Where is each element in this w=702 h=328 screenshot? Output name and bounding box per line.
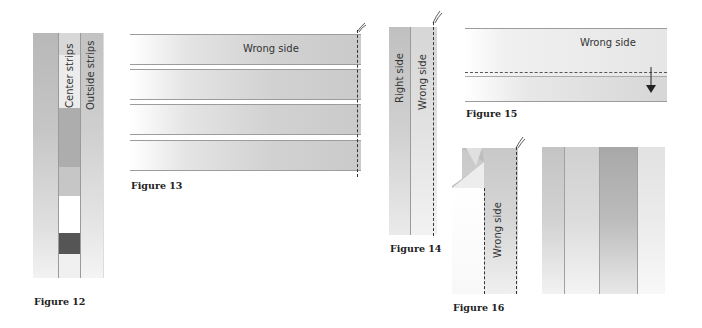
wrong-side-label: Wrong side: [492, 202, 503, 258]
strip-4: [130, 140, 361, 171]
arrow-down-icon: [645, 67, 657, 95]
panel-strip-3: [600, 147, 638, 294]
strip-3: [130, 104, 361, 135]
thread-icon: [514, 136, 526, 149]
center-strips-label: Center strips: [64, 44, 75, 108]
stitch-line-outer: [516, 147, 517, 294]
center-block-dark: [59, 233, 81, 254]
strip-top: [465, 28, 667, 77]
thread-icon: [431, 10, 443, 24]
fold-flap: [452, 148, 492, 190]
thread-icon: [355, 22, 367, 34]
center-block-4: [59, 167, 81, 196]
outside-strip-left: [33, 33, 58, 278]
outside-strips-label: Outside strips: [85, 41, 96, 110]
figure-12-caption: Figure 12: [34, 296, 85, 307]
panel-strip-2: [565, 147, 600, 294]
stitch-line: [357, 30, 358, 177]
stitch-line: [465, 72, 667, 73]
figure-14-caption: Figure 14: [390, 243, 441, 254]
figure-13-caption: Figure 13: [131, 180, 182, 191]
strip-2: [130, 69, 361, 100]
figure-16-caption: Figure 16: [453, 302, 504, 313]
center-block-5: [59, 196, 81, 233]
stitch-line-inner: [484, 188, 485, 294]
center-block-3: [59, 108, 81, 167]
panel-strip-1: [542, 147, 565, 294]
panel-strip-4: [638, 147, 665, 294]
wrong-side-label: Wrong side: [580, 37, 636, 48]
figure-15-caption: Figure 15: [466, 108, 517, 119]
strip-front: [452, 188, 484, 294]
wrong-side-label: Wrong side: [243, 43, 299, 54]
wrong-side-label: Wrong side: [417, 54, 428, 110]
center-block-7: [59, 254, 81, 278]
right-side-label: Right side: [394, 53, 405, 103]
strip-folded: [465, 76, 667, 102]
stitch-line: [433, 22, 434, 236]
